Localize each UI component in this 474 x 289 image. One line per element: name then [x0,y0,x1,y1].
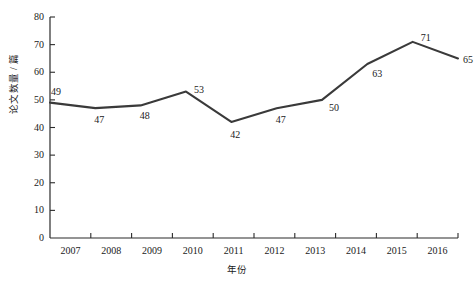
data-point-value: 47 [82,115,116,125]
line-chart: 论文数量 / 篇 01020304050607080 2007200820092… [0,0,474,289]
data-point-value: 71 [409,33,443,43]
data-point-value: 63 [360,69,394,79]
data-point-value: 50 [317,103,351,113]
data-point-value: 47 [264,115,298,125]
data-point-value: 65 [451,55,474,65]
data-point-labels: 49474853424750637165 [0,0,474,289]
data-point-value: 53 [182,85,216,95]
data-point-value: 48 [128,111,162,121]
data-point-value: 42 [218,130,252,140]
x-axis-title: 年份 [0,262,474,276]
data-point-value: 49 [39,87,73,97]
